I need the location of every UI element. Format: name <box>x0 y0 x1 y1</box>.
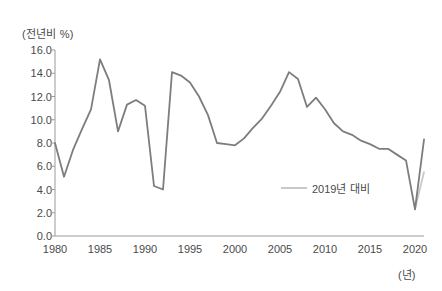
x-tick-label: 1980 <box>43 243 67 255</box>
x-tick-label: 1990 <box>133 243 157 255</box>
x-tick-label: 1985 <box>88 243 112 255</box>
x-tick-label: 2005 <box>268 243 292 255</box>
chart-figure: (전년비 %) 0.02.04.06.08.010.012.014.016.0 … <box>0 0 442 291</box>
x-tick-label: 2000 <box>223 243 247 255</box>
x-tick-label: 2015 <box>358 243 382 255</box>
x-axis-unit-label: (년) <box>398 266 415 282</box>
x-tick-label: 2010 <box>313 243 337 255</box>
x-tick-label: 1995 <box>178 243 202 255</box>
x-tick-label: 2020 <box>403 243 427 255</box>
legend-entry-label: 2019년 대비 <box>312 180 370 196</box>
